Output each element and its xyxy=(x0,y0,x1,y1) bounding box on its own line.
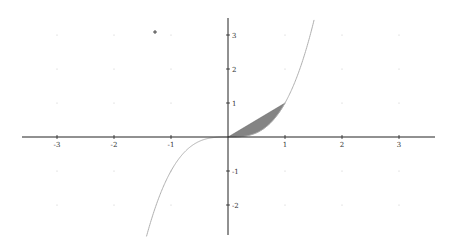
x-tick-label: 3 xyxy=(397,141,401,149)
grid-dot xyxy=(56,68,57,69)
grid-dot xyxy=(398,204,399,205)
grid-dot xyxy=(341,102,342,103)
grid-dot xyxy=(341,34,342,35)
grid-dot xyxy=(113,170,114,171)
point-marker-icon[interactable] xyxy=(153,30,157,34)
grid-dot xyxy=(284,68,285,69)
x-tick-label: 1 xyxy=(283,141,287,149)
grid-dot xyxy=(56,34,57,35)
x-tick-label: 2 xyxy=(340,141,344,149)
y-tick-label: 3 xyxy=(232,32,236,40)
grid-dot xyxy=(341,68,342,69)
grid-dot xyxy=(170,34,171,35)
x-tick-label: -1 xyxy=(168,141,175,149)
grid-dot xyxy=(170,68,171,69)
grid-dot xyxy=(113,34,114,35)
cubic-curve[interactable] xyxy=(146,20,314,236)
grid-dot xyxy=(398,68,399,69)
y-tick-label: -1 xyxy=(232,168,239,176)
y-tick-label: 1 xyxy=(232,100,236,108)
grid-dot xyxy=(341,170,342,171)
y-tick-label: 2 xyxy=(232,66,236,74)
grid-dot xyxy=(113,68,114,69)
grid-dot xyxy=(170,204,171,205)
grid-dot xyxy=(284,34,285,35)
graph-canvas[interactable]: -3-2-1123 -2-1123 xyxy=(0,0,455,245)
grid-dot xyxy=(398,102,399,103)
grid-dot xyxy=(56,204,57,205)
grid-dot xyxy=(56,170,57,171)
grid-dot xyxy=(341,204,342,205)
grid-dot xyxy=(284,204,285,205)
grid-dot xyxy=(398,34,399,35)
grid-dot xyxy=(113,102,114,103)
shaded-area[interactable] xyxy=(228,103,285,137)
y-tick-label: -2 xyxy=(232,202,239,210)
grid-dot xyxy=(113,204,114,205)
grid-dot xyxy=(56,102,57,103)
grid-dot xyxy=(398,170,399,171)
x-tick-label: -3 xyxy=(54,141,61,149)
grid-dot xyxy=(284,170,285,171)
grid-dot xyxy=(170,102,171,103)
x-tick-label: -2 xyxy=(111,141,118,149)
